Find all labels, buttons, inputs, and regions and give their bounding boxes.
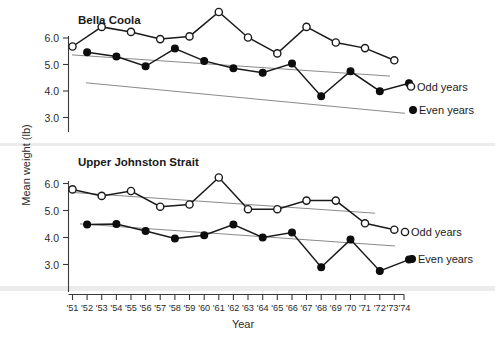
scan-artifact-band: [0, 286, 495, 291]
legend-label-odd-lower: Odd years: [411, 226, 462, 238]
legend-label-even-upper: Even years: [419, 104, 475, 116]
y-ticklabel-4-lower: 4.0: [44, 232, 59, 244]
x-ticklabel-70: '70: [345, 303, 357, 313]
x-ticklabel-61: '61: [213, 303, 225, 313]
figure-container: Bella Coola 6.0 5.0 4.0 3.0: [0, 0, 495, 342]
x-ticklabel-64: '64: [257, 303, 269, 313]
y-ticklabel-4-upper: 4.0: [44, 85, 59, 97]
x-ticklabel-53: '53: [96, 303, 108, 313]
legend-label-even-lower: Even years: [418, 253, 474, 265]
chart-svg: Bella Coola 6.0 5.0 4.0 3.0: [0, 0, 495, 342]
x-ticklabel-71: '71: [359, 303, 371, 313]
x-ticklabel-54: '54: [110, 303, 122, 313]
x-ticklabel-73: '73: [387, 303, 399, 313]
x-axis-title: Year: [232, 318, 255, 330]
y-ticklabel-5-upper: 5.0: [44, 59, 59, 71]
legend-marker-even-lower: [409, 256, 416, 263]
panel-title-bella-coola: Bella Coola: [78, 14, 141, 26]
x-ticklabel-63: '63: [242, 303, 254, 313]
y-ticklabel-5-lower: 5.0: [44, 205, 59, 217]
legend-label-odd-upper: Odd years: [417, 81, 468, 93]
x-ticklabel-52: '52: [81, 303, 93, 313]
x-ticklabel-58: '58: [169, 303, 181, 313]
y-ticklabel-6-lower: 6.0: [44, 178, 59, 190]
x-ticklabel-60: '60: [198, 303, 210, 313]
y-axis-title: Mean weight (lb): [20, 124, 32, 205]
x-ticklabel-69: '69: [330, 303, 342, 313]
x-axis-ticklabels: '51 '52 '53 '54 '55 '56 '57 '58 '59 '60 …: [67, 303, 411, 313]
x-ticklabel-62: '62: [227, 303, 239, 313]
x-ticklabel-51: '51: [67, 303, 79, 313]
x-ticklabel-59: '59: [184, 303, 196, 313]
x-ticklabel-66: '66: [286, 303, 298, 313]
legend-marker-odd-lower: [401, 228, 408, 235]
x-ticklabel-65: '65: [271, 303, 283, 313]
x-ticklabel-56: '56: [140, 303, 152, 313]
x-ticklabel-74: '74: [399, 303, 411, 313]
legend-marker-even-upper: [410, 107, 417, 114]
x-ticklabel-68: '68: [315, 303, 327, 313]
x-ticklabel-67: '67: [301, 303, 313, 313]
x-ticklabel-72: '72: [374, 303, 386, 313]
scan-artifact-band-2: [0, 143, 495, 146]
y-ticklabel-6-upper: 6.0: [44, 32, 59, 44]
y-ticklabel-3-lower: 3.0: [44, 259, 59, 271]
legend-marker-odd-upper: [407, 83, 414, 90]
panel-title-upper-johnston-strait: Upper Johnston Strait: [78, 156, 199, 168]
x-ticklabel-57: '57: [154, 303, 166, 313]
y-ticklabel-3-upper: 3.0: [44, 112, 59, 124]
x-ticklabel-55: '55: [125, 303, 137, 313]
